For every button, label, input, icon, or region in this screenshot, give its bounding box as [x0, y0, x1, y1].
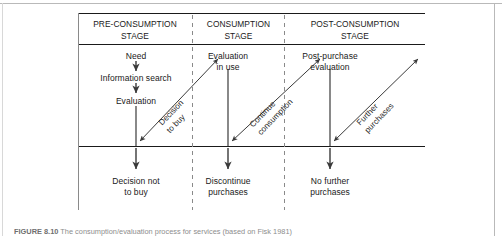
page-rule-right	[494, 3, 495, 236]
node-no-further-purchases: No further purchases	[288, 176, 372, 198]
node-decision-not-to-buy: Decision not to buy	[91, 176, 181, 198]
node-information-search: Information search	[81, 73, 191, 84]
figure-caption-text: The consumption/evaluation process for s…	[60, 227, 292, 236]
node-evaluation-in-use-line1: Evaluation	[188, 51, 268, 62]
node-post-purchase-evaluation: Post-purchase evaluation	[283, 51, 377, 73]
node-discontinue-purchases-line2: purchases	[185, 187, 271, 198]
column-header-post-consumption-line2: STAGE	[285, 31, 425, 43]
node-evaluation-in-use: Evaluation in use	[188, 51, 268, 73]
node-evaluation: Evaluation	[96, 96, 176, 107]
column-header-pre-consumption-line1: PRE-CONSUMPTION	[78, 19, 192, 31]
page-rule-top	[0, 3, 502, 4]
column-header-consumption-line2: STAGE	[193, 31, 284, 43]
node-post-purchase-evaluation-line1: Post-purchase	[283, 51, 377, 62]
node-discontinue-purchases-line1: Discontinue	[185, 176, 271, 187]
column-header-pre-consumption: PRE-CONSUMPTION STAGE	[78, 19, 192, 42]
node-no-further-purchases-line2: purchases	[288, 187, 372, 198]
node-discontinue-purchases: Discontinue purchases	[185, 176, 271, 198]
node-no-further-purchases-line1: No further	[288, 176, 372, 187]
node-decision-not-to-buy-line2: to buy	[91, 187, 181, 198]
node-need: Need	[96, 51, 176, 62]
column-header-consumption: CONSUMPTION STAGE	[193, 19, 284, 42]
page-rule-left	[2, 3, 3, 236]
figure-caption-number: FIGURE 8.10	[14, 227, 58, 236]
column-header-post-consumption-line1: POST-CONSUMPTION	[285, 19, 425, 31]
consumption-evaluation-diagram: PRE-CONSUMPTION STAGE CONSUMPTION STAGE …	[78, 13, 425, 210]
column-header-consumption-line1: CONSUMPTION	[193, 19, 284, 31]
column-header-pre-consumption-line2: STAGE	[78, 31, 192, 43]
node-post-purchase-evaluation-line2: evaluation	[283, 62, 377, 73]
node-evaluation-in-use-line2: in use	[188, 62, 268, 73]
figure-caption: FIGURE 8.10 The consumption/evaluation p…	[14, 227, 484, 236]
column-header-post-consumption: POST-CONSUMPTION STAGE	[285, 19, 425, 42]
node-decision-not-to-buy-line1: Decision not	[91, 176, 181, 187]
